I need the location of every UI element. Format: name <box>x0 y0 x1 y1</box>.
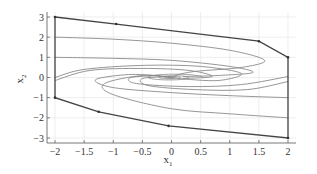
phase-portrait-chart: −2−1.5−1−0.500.511.52 3210−1−2−3 x1 x2 <box>0 0 317 174</box>
trajectory-line <box>55 37 265 75</box>
x-tick-label: −2 <box>50 146 61 157</box>
vertex-marker <box>258 40 261 43</box>
y-tick-labels: 3210−1−2−3 <box>33 12 44 144</box>
vertex-marker <box>287 56 290 59</box>
trajectory-line <box>55 65 242 81</box>
vertex-marker <box>287 137 290 140</box>
vertex-marker <box>54 16 57 19</box>
y-tick-label: −1 <box>33 92 44 103</box>
trajectory-line <box>55 57 253 76</box>
y-axis-label: x2 <box>13 74 28 84</box>
y-tick-label: 2 <box>39 32 44 43</box>
x-tick-label: 1.5 <box>253 146 266 157</box>
y-tick-label: 3 <box>39 12 44 23</box>
y-tick-label: 0 <box>39 72 44 83</box>
x-tick-label: −1.5 <box>75 146 93 157</box>
vertex-marker <box>54 96 57 99</box>
y-tick-label: −3 <box>33 133 44 144</box>
vertex-marker <box>167 125 170 128</box>
x-tick-label: 0.5 <box>194 146 207 157</box>
x-tick-label: 1 <box>227 146 232 157</box>
y-tick-label: 1 <box>39 52 44 63</box>
x-tick-label: 0 <box>169 146 174 157</box>
vertex-marker <box>97 110 100 113</box>
x-tick-label: −1 <box>108 146 119 157</box>
y-tick-label: −2 <box>33 112 44 123</box>
x-tick-label: −0.5 <box>133 146 151 157</box>
vertex-marker <box>115 23 118 26</box>
x-tick-labels: −2−1.5−1−0.500.511.52 <box>50 146 291 157</box>
x-tick-label: 2 <box>286 146 291 157</box>
